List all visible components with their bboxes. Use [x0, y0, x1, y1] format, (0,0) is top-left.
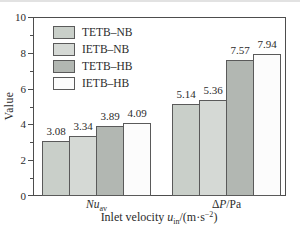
legend-swatch	[53, 77, 75, 90]
bar	[253, 54, 281, 196]
bar-value-label: 3.08	[46, 125, 65, 137]
y-axis-tick-label: 4	[0, 117, 26, 131]
y-axis-minor-tick	[30, 71, 33, 72]
text-segment: /Pa	[226, 198, 241, 210]
y-axis-major-tick	[28, 160, 33, 161]
legend-label: TETB–NB	[82, 26, 132, 39]
bar-value-label: 3.89	[100, 110, 119, 122]
y-axis-tick-label: 6	[0, 82, 26, 96]
y-axis-major-tick	[28, 89, 33, 90]
y-axis-major-tick	[28, 195, 33, 196]
y-axis-minor-tick	[30, 35, 33, 36]
scan-edge-artifact	[0, 0, 300, 2]
text-segment: Inlet velocity	[101, 210, 168, 224]
bar	[42, 141, 70, 196]
legend-swatch	[53, 43, 75, 56]
bar	[172, 104, 200, 196]
bar-value-label: 3.34	[73, 120, 92, 132]
legend-swatch	[53, 26, 75, 39]
bar-chart-figure: Value TETB–NBIETB–NBTETB–HBIETB–HB Inlet…	[0, 0, 300, 239]
text-segment: −2	[205, 210, 214, 219]
legend-label: IETB–HB	[82, 77, 129, 90]
x-axis-title: Inlet velocity uin/(m·s−2)	[101, 210, 218, 226]
legend-item: IETB–NB	[53, 43, 132, 56]
y-axis-major-tick	[28, 53, 33, 54]
y-axis-tick-label: 2	[0, 153, 26, 167]
y-axis-tick-label: 10	[0, 10, 26, 24]
legend-swatch	[53, 60, 75, 73]
bar-value-label: 4.09	[127, 107, 146, 119]
text-segment: Nu	[86, 198, 99, 210]
bar-value-label: 5.14	[176, 88, 195, 100]
bar-value-label: 7.57	[230, 44, 249, 56]
x-axis-category-label: Nuav	[86, 198, 107, 213]
y-axis-major-tick	[28, 124, 33, 125]
bar	[199, 100, 227, 196]
legend: TETB–NBIETB–NBTETB–HBIETB–HB	[53, 26, 132, 94]
legend-item: IETB–HB	[53, 77, 132, 90]
bar	[96, 126, 124, 196]
text-segment: av	[99, 204, 107, 213]
y-axis-minor-tick	[30, 178, 33, 179]
text-segment: )	[213, 210, 217, 224]
text-segment: /(m·s	[180, 210, 205, 224]
y-axis-tick-label: 0	[0, 189, 26, 203]
legend-label: TETB–HB	[82, 60, 132, 73]
bar	[226, 60, 254, 196]
bar-value-label: 5.36	[203, 84, 222, 96]
y-axis-minor-tick	[30, 107, 33, 108]
bar-value-label: 7.94	[257, 38, 276, 50]
x-axis-category-label: ΔP/Pa	[212, 198, 241, 210]
legend-label: IETB–NB	[82, 43, 129, 56]
bar	[69, 136, 97, 196]
bar	[123, 123, 151, 196]
y-axis-minor-tick	[30, 142, 33, 143]
legend-item: TETB–NB	[53, 26, 132, 39]
y-axis-major-tick	[28, 17, 33, 18]
y-axis-tick-label: 8	[0, 46, 26, 60]
legend-item: TETB–HB	[53, 60, 132, 73]
